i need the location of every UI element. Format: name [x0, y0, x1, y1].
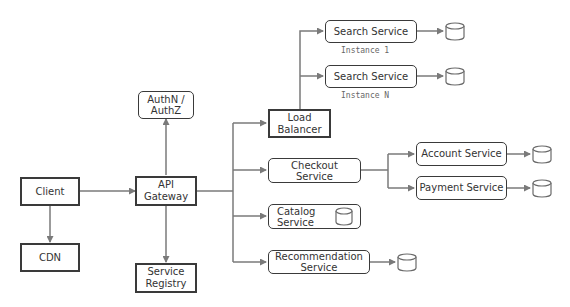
search-service-1-label: Search Service — [334, 26, 409, 38]
service-registry-node[interactable]: Service Registry — [135, 263, 197, 293]
catalog-label-line2: Service — [277, 217, 315, 228]
catalog-label: Catalog Service — [277, 206, 315, 228]
search-n-database-icon — [444, 67, 466, 87]
recommendation-label-line1: Recommendation — [275, 251, 363, 262]
account-database-icon — [531, 145, 553, 165]
service-registry-label-line1: Service — [148, 266, 185, 278]
account-service-node[interactable]: Account Service — [416, 142, 507, 166]
api-gateway-label-line2: Gateway — [144, 191, 188, 203]
checkout-service-node[interactable]: Checkout Service — [268, 158, 361, 183]
payment-service-label: Payment Service — [420, 182, 504, 194]
catalog-service-node[interactable]: Catalog Service — [268, 204, 361, 229]
catalog-label-line1: Catalog — [277, 206, 315, 217]
client-label: Client — [36, 186, 65, 198]
search-service-instance-1-node[interactable]: Search Service — [325, 20, 417, 43]
load-balancer-node[interactable]: Load Balancer — [268, 109, 331, 138]
architecture-diagram: Client CDN API Gateway AuthN / AuthZ Ser… — [0, 0, 570, 307]
api-gateway-node[interactable]: API Gateway — [135, 176, 197, 206]
checkout-label-line1: Checkout — [291, 160, 338, 171]
recommendation-database-icon — [396, 253, 418, 273]
account-service-label: Account Service — [421, 148, 502, 160]
cdn-node[interactable]: CDN — [20, 243, 80, 272]
instance-n-caption: Instance N — [341, 91, 389, 100]
recommendation-label-line2: Service — [301, 262, 338, 273]
cdn-label: CDN — [39, 252, 61, 264]
service-registry-label-line2: Registry — [146, 278, 187, 290]
checkout-label-line2: Service — [296, 171, 333, 182]
search-1-database-icon — [444, 22, 466, 42]
search-service-n-label: Search Service — [334, 71, 409, 83]
catalog-database-icon — [334, 207, 354, 226]
payment-service-node[interactable]: Payment Service — [416, 176, 507, 200]
load-balancer-label-line1: Load — [288, 112, 312, 124]
search-service-instance-n-node[interactable]: Search Service — [325, 65, 417, 88]
instance-1-caption: Instance 1 — [341, 46, 389, 55]
recommendation-service-node[interactable]: Recommendation Service — [268, 250, 370, 274]
api-gateway-label-line1: API — [158, 179, 174, 191]
load-balancer-label-line2: Balancer — [278, 124, 322, 136]
payment-database-icon — [531, 179, 553, 199]
auth-label-line2: AuthZ — [151, 105, 181, 116]
auth-node[interactable]: AuthN / AuthZ — [138, 91, 194, 119]
client-node[interactable]: Client — [20, 177, 80, 206]
auth-label-line1: AuthN / — [147, 94, 184, 105]
edge-lb-search1 — [300, 31, 323, 109]
